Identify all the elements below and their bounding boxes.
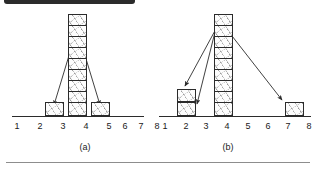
axis-tick-4: 4 [79,121,93,132]
axis-tick-7: 7 [134,121,148,132]
axis-tick-8: 8 [302,121,315,132]
axis-tick-6: 6 [118,121,132,132]
axis-tick-1: 1 [10,121,24,132]
axis-tick-5: 5 [241,121,255,132]
panel-a: 1 2 3 4 5 6 7 8 (a) [0,0,157,169]
panel-b-caption: (b) [208,142,248,153]
axis-tick-1: 1 [158,121,172,132]
block [68,102,87,116]
axis-tick-3: 3 [199,121,213,132]
block [177,102,196,116]
panel-b: 1 2 3 4 5 6 7 8 (b) [157,0,314,169]
arrow-to-stack-2-upper [185,27,217,86]
number-line-axis [159,116,311,117]
block [91,102,110,116]
panel-a-caption: (a) [65,142,105,153]
axis-tick-6: 6 [261,121,275,132]
axis-tick-2: 2 [33,121,47,132]
number-line-axis [12,116,144,117]
figure-root: 1 2 3 4 5 6 7 8 (a) [0,0,315,169]
block [177,89,196,102]
axis-tick-5: 5 [102,121,116,132]
block [285,102,304,116]
axis-tick-3: 3 [56,121,70,132]
arrow-to-stack-8 [225,27,282,100]
axis-tick-7: 7 [281,121,295,132]
axis-tick-4: 4 [220,121,234,132]
block [214,102,233,116]
block [45,102,64,116]
scan-edge-rule-bottom [6,162,310,163]
axis-tick-2: 2 [179,121,193,132]
